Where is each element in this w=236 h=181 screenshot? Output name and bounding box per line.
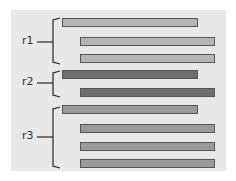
bar-r3 <box>80 124 215 133</box>
bar-r1 <box>80 37 215 46</box>
bar-r3 <box>80 159 215 168</box>
bar-r1 <box>80 54 215 63</box>
bar-r3 <box>80 142 215 151</box>
bracket-r3 <box>53 107 60 168</box>
bracket-r2 <box>53 71 60 97</box>
bar-r1 <box>62 18 198 27</box>
group-label-r3: r3 <box>22 130 34 142</box>
group-label-r1: r1 <box>22 35 34 47</box>
bar-r2 <box>80 88 215 97</box>
bar-r2 <box>62 70 198 79</box>
group-label-r2: r2 <box>22 76 34 88</box>
bracket-r1 <box>53 18 60 64</box>
bar-r3 <box>62 105 198 114</box>
